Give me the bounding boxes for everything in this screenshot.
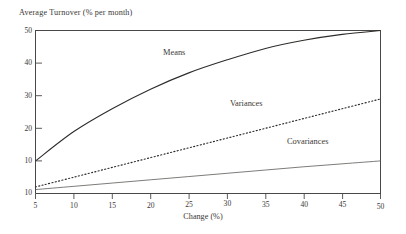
- series-annotation-means: Means: [163, 48, 185, 57]
- xtick-label-15: 15: [100, 201, 124, 210]
- ytick-label-10: 10: [10, 156, 32, 165]
- series-line-variances: [36, 99, 381, 187]
- x-axis-title: Change (%): [0, 212, 406, 221]
- xtick-label-20: 20: [139, 201, 163, 210]
- xtick-label-10: 10: [62, 201, 86, 210]
- plot-area: [0, 0, 406, 234]
- xtick-label-50: 50: [369, 202, 393, 211]
- xtick-label-40: 40: [292, 200, 316, 209]
- xtick-label-35: 35: [254, 200, 278, 209]
- series-line-means: [36, 31, 381, 161]
- ytick-label-20: 20: [10, 124, 32, 133]
- series-annotation-variances: Variances: [230, 99, 263, 108]
- xtick-label-45: 45: [331, 200, 355, 209]
- chart-figure: Average Turnover (% per month): [0, 0, 406, 234]
- xtick-label-5: 5: [24, 201, 48, 210]
- series-annotation-covariances: Covariances: [287, 137, 328, 146]
- ytick-label-40: 40: [10, 58, 32, 67]
- xtick-label-30: 30: [215, 199, 239, 208]
- xtick-label-25: 25: [177, 200, 201, 209]
- ytick-label-0: 10: [10, 188, 32, 197]
- series-paths: [36, 31, 381, 190]
- ytick-label-30: 30: [10, 91, 32, 100]
- x-axis-ticks: [36, 194, 381, 200]
- ytick-label-50: 50: [10, 26, 32, 35]
- y-axis-ticks: [36, 31, 43, 161]
- series-line-covariances: [36, 161, 381, 190]
